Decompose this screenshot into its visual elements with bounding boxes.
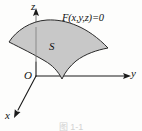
figure-container: z y x O S F(x,y,z)=0 图 1-1 (0, 0, 142, 131)
surface-label: S (49, 41, 55, 52)
x-axis-arrowhead (14, 109, 21, 118)
figure-caption: 图 1-1 (0, 120, 142, 131)
origin-label: O (24, 70, 32, 81)
y-axis (36, 73, 131, 79)
x-axis-line (18, 76, 36, 110)
x-axis (14, 76, 36, 118)
surface-equation-label: F(x,y,z)=0 (62, 13, 104, 24)
axis-label-y: y (131, 68, 136, 79)
axis-label-z: z (31, 1, 35, 12)
